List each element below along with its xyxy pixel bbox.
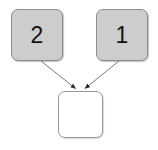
diagram-canvas: 2 1 <box>0 0 158 150</box>
diagram-node-target[interactable] <box>58 91 103 138</box>
diagram-node-one[interactable]: 1 <box>96 9 148 61</box>
diagram-node-two-label: 2 <box>31 24 44 47</box>
edge-two-to-target <box>41 61 76 89</box>
edge-one-to-target <box>85 61 119 89</box>
diagram-node-one-label: 1 <box>116 24 129 47</box>
diagram-node-two[interactable]: 2 <box>11 9 63 61</box>
